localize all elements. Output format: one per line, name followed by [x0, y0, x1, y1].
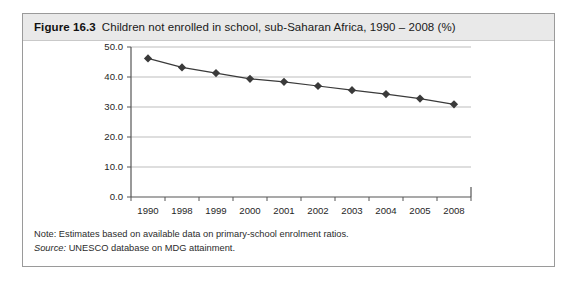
x-axis-tick-label: 2003: [341, 205, 362, 216]
data-point-marker: [348, 86, 356, 94]
series-line-children-not-enrolled: [148, 58, 454, 104]
x-axis-tick-label: 2004: [375, 205, 397, 216]
figure-note: Note: Estimates based on available data …: [34, 228, 544, 242]
x-axis-tick-label: 2005: [409, 205, 430, 216]
x-axis-tick-label: 2000: [239, 205, 260, 216]
x-axis-tick-label: 2008: [443, 205, 464, 216]
figure-number: Figure 16.3: [34, 21, 96, 33]
x-axis-tick-label: 2002: [307, 205, 328, 216]
x-axis-tick-label: 1999: [205, 205, 226, 216]
data-point-marker: [280, 78, 288, 86]
x-tick-marks-group: [131, 197, 471, 201]
data-point-marker: [382, 90, 390, 98]
x-axis-tick-label: 1990: [137, 205, 158, 216]
y-axis-tick-label: 30.0: [104, 101, 123, 112]
figure-source: Source: UNESCO database on MDG attainmen…: [34, 242, 544, 256]
x-axis-tick-label: 1998: [171, 205, 192, 216]
figure-caption: Figure 16.3 Children not enrolled in sch…: [23, 14, 554, 41]
data-point-marker: [314, 82, 322, 90]
chart-plot-area: 0.010.020.030.040.050.0 1990199819992000…: [23, 41, 556, 226]
data-point-marker: [178, 63, 186, 71]
y-tick-marks-group: [127, 47, 131, 197]
data-point-marker: [144, 54, 152, 62]
series-markers-group: [144, 54, 458, 108]
y-axis-tick-label: 20.0: [104, 131, 123, 142]
y-axis-tick-labels-group: 0.010.020.030.040.050.0: [104, 41, 123, 202]
y-axis-tick-label: 0.0: [110, 191, 123, 202]
figure-source-text: UNESCO database on MDG attainment.: [69, 243, 235, 253]
data-point-marker: [246, 75, 254, 83]
figure-source-label: Source:: [34, 243, 66, 253]
x-axis-tick-label: 2001: [273, 205, 294, 216]
line-chart: 0.010.020.030.040.050.0 1990199819992000…: [23, 41, 556, 226]
figure-notes: Note: Estimates based on available data …: [34, 228, 544, 255]
data-point-marker: [416, 95, 424, 103]
x-axis-tick-labels-group: 1990199819992000200120022003200420052008: [137, 205, 464, 216]
figure-box: Figure 16.3 Children not enrolled in sch…: [22, 13, 555, 267]
figure-title: Children not enrolled in school, sub-Sah…: [102, 21, 456, 33]
data-point-marker: [212, 69, 220, 77]
y-axis-tick-label: 40.0: [104, 71, 123, 82]
y-axis-tick-label: 50.0: [104, 41, 123, 52]
y-axis-tick-label: 10.0: [104, 161, 123, 172]
